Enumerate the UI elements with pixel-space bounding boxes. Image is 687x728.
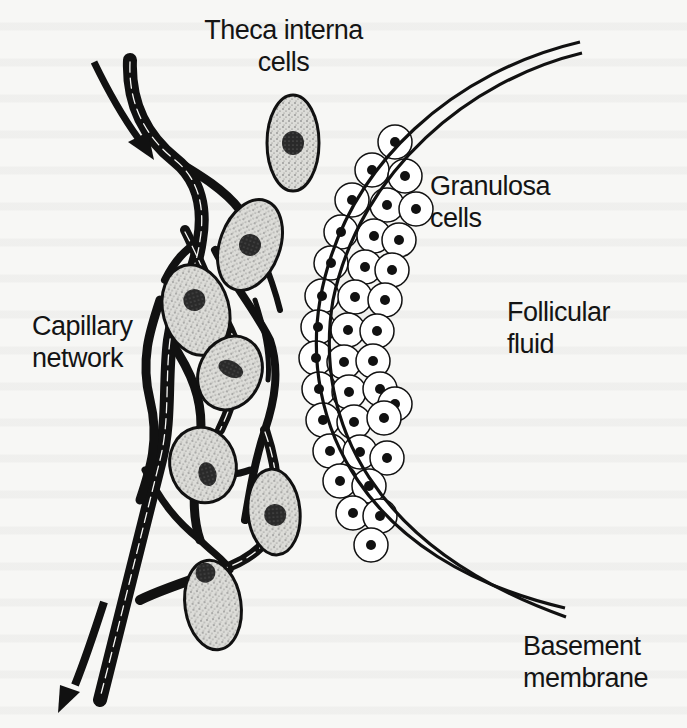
theca-cell [267,95,319,191]
theca-cell [161,420,244,510]
granulosa-nucleus [400,171,410,181]
granulosa-nucleus [394,235,404,245]
granulosa-nucleus [382,453,392,463]
granulosa-nucleus [372,326,382,336]
granulosa-nucleus [349,417,359,427]
granulosa-nucleus [339,357,349,367]
label-theca-interna: Theca interna cells [196,14,371,78]
theca-cell [244,467,303,557]
granulosa-nucleus [379,413,389,423]
granulosa-nucleus [325,446,335,456]
label-basement-membrane: Basement membrane [523,630,648,694]
granulosa-cells [299,125,433,562]
granulosa-nucleus [335,476,345,486]
label-capillary-network: Capillary network [32,310,133,374]
granulosa-nucleus [366,540,376,550]
granulosa-nucleus [368,356,378,366]
granulosa-nucleus [350,292,360,302]
granulosa-nucleus [411,204,421,214]
granulosa-nucleus [380,295,390,305]
granulosa-nucleus [382,200,392,210]
granulosa-nucleus [369,231,379,241]
label-follicular-fluid: Follicular fluid [507,296,610,360]
theca-cell [179,557,247,654]
granulosa-nucleus [343,325,353,335]
granulosa-nucleus [348,508,358,518]
label-granulosa: Granulosa cells [430,170,550,234]
granulosa-nucleus [344,387,354,397]
granulosa-nucleus [360,262,370,272]
theca-cells [152,95,319,653]
follicle-diagram: Theca interna cells Granulosa cells Foll… [0,0,687,728]
granulosa-nucleus [387,265,397,275]
